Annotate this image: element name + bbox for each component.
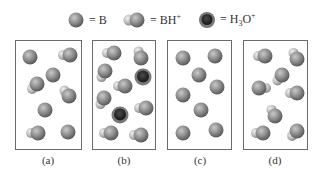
- conjugate-acid-molecule-icon: [267, 105, 283, 124]
- conjugate-acid-molecule-icon: [113, 79, 133, 94]
- base-molecule-icon: [38, 103, 53, 118]
- conjugate-acid-molecule-icon: [58, 48, 78, 63]
- base-molecule-icon: [210, 80, 225, 95]
- conjugate-acid-molecule-icon: [253, 49, 273, 64]
- conjugate-acid-molecule-icon: [97, 64, 113, 83]
- hydronium-molecule-icon: [112, 107, 129, 124]
- conjugate-acid-molecule-icon: [26, 126, 46, 141]
- base-molecule-icon: [194, 103, 209, 118]
- conjugate-acid-molecule-icon: [289, 48, 305, 67]
- base-molecule-icon: [23, 50, 38, 65]
- base-molecule-icon: [176, 88, 191, 103]
- hydronium-molecule-icon: [135, 69, 152, 86]
- conjugate-acid-molecule-icon: [99, 126, 119, 141]
- conjugate-acid-molecule-icon: [134, 46, 149, 65]
- conjugate-acid-molecule-icon: [273, 68, 290, 86]
- conjugate-acid-molecule-icon: [251, 126, 271, 141]
- conjugate-acid-molecule-icon: [60, 86, 77, 104]
- conjugate-acid-molecule-icon: [285, 86, 305, 101]
- base-molecule-icon: [176, 51, 191, 66]
- conjugate-acid-molecule-icon: [102, 46, 122, 61]
- conjugate-acid-molecule-icon: [27, 77, 44, 94]
- conjugate-acid-molecule-icon: [287, 124, 304, 141]
- base-molecule-icon: [46, 68, 61, 83]
- conjugate-acid-molecule-icon: [252, 81, 272, 96]
- base-molecule-icon: [192, 68, 207, 83]
- base-molecule-icon: [61, 125, 76, 140]
- molecule-layer: [0, 0, 325, 174]
- conjugate-acid-molecule-icon: [96, 91, 112, 110]
- base-molecule-icon: [209, 123, 224, 138]
- conjugate-acid-molecule-icon: [129, 128, 149, 143]
- conjugate-acid-molecule-icon: [134, 101, 154, 116]
- base-molecule-icon: [208, 49, 223, 64]
- base-molecule-icon: [176, 126, 191, 141]
